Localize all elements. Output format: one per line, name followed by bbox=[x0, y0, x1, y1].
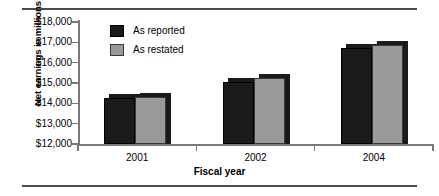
top-divider-rule bbox=[22, 8, 417, 10]
y-tick-label: $17,000 bbox=[18, 36, 72, 47]
legend-swatch-as-reported bbox=[110, 25, 124, 37]
bar-2002-as-restated bbox=[254, 78, 285, 144]
bottom-divider-rule bbox=[22, 185, 417, 187]
bar-2002-as-reported bbox=[223, 82, 254, 144]
x-tick-mark bbox=[77, 144, 79, 151]
y-tick-label: $15,000 bbox=[18, 77, 72, 88]
legend-label-as-reported: As reported bbox=[133, 25, 185, 36]
y-tick-label: $16,000 bbox=[18, 57, 72, 68]
legend-item-as-reported: As reported bbox=[110, 22, 185, 39]
bar-2001-as-reported bbox=[104, 98, 135, 144]
legend-swatch-as-restated bbox=[110, 44, 124, 56]
chart-legend: As reported As restated bbox=[110, 22, 185, 60]
chart-figure: Net earnings in millions $18,000$17,000$… bbox=[0, 0, 439, 196]
y-tick-mark bbox=[72, 21, 78, 23]
x-axis-line bbox=[78, 144, 434, 146]
x-tick-mark bbox=[196, 144, 198, 151]
x-axis-title: Fiscal year bbox=[0, 166, 439, 177]
x-tick-label: 2001 bbox=[107, 152, 167, 163]
y-tick-mark bbox=[72, 82, 78, 84]
x-tick-label: 2004 bbox=[344, 152, 404, 163]
y-tick-label: $14,000 bbox=[18, 97, 72, 108]
y-tick-label: $18,000 bbox=[18, 16, 72, 27]
y-tick-mark bbox=[72, 42, 78, 44]
y-axis-line bbox=[78, 20, 80, 146]
x-tick-mark bbox=[314, 144, 316, 151]
legend-item-as-restated: As restated bbox=[110, 41, 185, 58]
y-tick-mark bbox=[72, 123, 78, 125]
x-tick-label: 2002 bbox=[226, 152, 286, 163]
legend-label-as-restated: As restated bbox=[133, 44, 184, 55]
y-tick-label: $13,000 bbox=[18, 118, 72, 129]
bar-2004-as-restated bbox=[372, 45, 403, 144]
y-tick-label: $12,000 bbox=[18, 138, 72, 149]
bar-2004-as-reported bbox=[341, 48, 372, 144]
bar-2001-as-restated bbox=[135, 97, 166, 144]
x-tick-mark bbox=[432, 144, 434, 151]
y-tick-mark bbox=[72, 62, 78, 64]
y-tick-mark bbox=[72, 103, 78, 105]
